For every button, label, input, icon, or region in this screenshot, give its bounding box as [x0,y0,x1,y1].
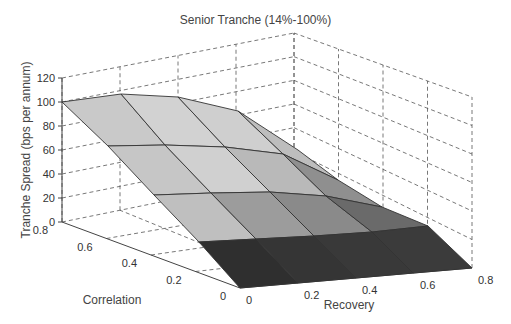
z-tick-label: 0 [49,216,55,228]
correlation-tick-label: 0 [220,290,226,302]
z-tick-label: 100 [37,96,55,108]
recovery-tick-label: 0.4 [362,284,377,296]
z-tick-label: 60 [43,144,55,156]
recovery-tick-label: 0.8 [478,274,493,286]
correlation-tick-label: 0.6 [77,241,92,253]
z-tick-label: 120 [37,72,55,84]
correlation-tick-label: 0.8 [33,224,48,236]
correlation-axis-label: Correlation [83,293,142,307]
correlation-tick-label: 0.4 [122,257,137,269]
recovery-tick-label: 0 [246,294,252,306]
recovery-tick-label: 0.6 [420,279,435,291]
z-tick-label: 80 [43,120,55,132]
recovery-tick-label: 0.2 [304,289,319,301]
surface-chart: 02040608010012000.20.40.60.800.20.40.60.… [0,0,511,324]
recovery-axis-label: Recovery [324,298,375,312]
z-tick-label: 20 [43,192,55,204]
z-tick-label: 40 [43,168,55,180]
z-axis-label: Tranche Spread (bps per annum) [19,62,33,239]
correlation-tick-label: 0.2 [166,274,181,286]
